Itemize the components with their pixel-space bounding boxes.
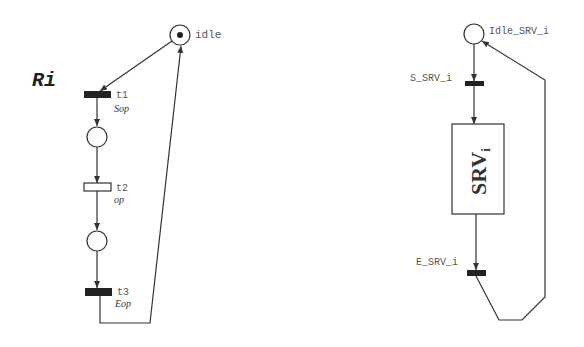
transition-e-srv[interactable] (467, 270, 486, 276)
place-p1[interactable] (87, 127, 107, 147)
transition-t2[interactable] (84, 183, 111, 191)
transition-action-t3: Eop (114, 298, 131, 309)
transition-label-t3: t3 (117, 287, 129, 298)
transition-t3[interactable] (85, 288, 112, 296)
petri-net-diagram: Ri idle t1 Sop t2 op t3 Eop (0, 0, 584, 347)
srv-box-label: SRVi (466, 148, 493, 195)
place-label-idle-srv: Idle_SRV_i (489, 26, 549, 37)
place-p2[interactable] (87, 231, 107, 251)
net-title: Ri (32, 69, 56, 92)
place-idle[interactable] (170, 25, 190, 45)
place-idle-srv[interactable] (464, 24, 484, 44)
transition-action-t1: Sop (114, 103, 129, 114)
place-label-idle: idle (195, 29, 221, 41)
transition-label-t2: t2 (116, 183, 128, 194)
svg-text:SRVi: SRVi (466, 148, 493, 195)
token-icon (177, 32, 183, 38)
arc-idle-t1 (100, 41, 172, 91)
left-net: Ri idle t1 Sop t2 op t3 Eop (32, 25, 221, 323)
transition-s-srv[interactable] (465, 81, 484, 86)
transition-label-s-srv: S_SRV_i (410, 73, 452, 84)
transition-label-t1: t1 (116, 90, 128, 101)
transition-t1[interactable] (84, 91, 111, 98)
arc-t3-idle (100, 46, 181, 323)
right-net: Idle_SRV_i S_SRV_i SRVi E_SRV_i (410, 24, 549, 320)
transition-action-t2: op (114, 194, 124, 205)
transition-label-e-srv: E_SRV_i (416, 257, 458, 268)
